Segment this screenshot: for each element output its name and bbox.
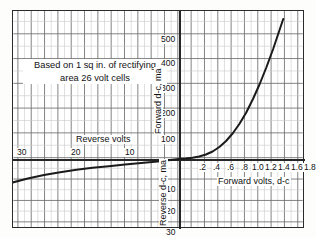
chart-annotation: Based on 1 sq in. of rectifying area 26 … (23, 59, 167, 84)
forward-xtick-0.6: .6 (226, 163, 235, 172)
forward-x-axis-title: Forward volts, d-c (217, 177, 291, 186)
forward-ytick-100: 100 (160, 135, 176, 144)
forward-xtick-1.0: 1.0 (251, 163, 265, 172)
forward-y-axis-title: Forward d-c, ma (154, 67, 163, 135)
annotation-line-2: area 26 volt cells (60, 73, 130, 83)
chart-figure: Based on 1 sq in. of rectifying area 26 … (0, 0, 316, 238)
forward-xtick-1.6: 1.6 (290, 163, 304, 172)
reverse-y-axis-title: Reverse d-c, ma (159, 159, 168, 227)
forward-xtick-0.8: .8 (240, 163, 249, 172)
forward-xtick-1.2: 1.2 (264, 163, 278, 172)
forward-xtick-1.4: 1.4 (277, 163, 291, 172)
reverse-xtick-30: 30 (16, 148, 27, 157)
forward-ytick-400: 400 (160, 59, 176, 68)
reverse-x-axis-title: Reverse volts (75, 135, 132, 144)
plot-frame: Based on 1 sq in. of rectifying area 26 … (12, 10, 304, 228)
reverse-xtick-20: 20 (70, 148, 81, 157)
forward-ytick-500: 500 (160, 35, 176, 44)
reverse-ytick-30: 30 (165, 228, 176, 237)
forward-xtick-1.8: 1.8 (303, 163, 316, 172)
reverse-xtick-10: 10 (124, 148, 135, 157)
forward-xtick-0.2: .2 (198, 163, 207, 172)
forward-xtick-0.4: .4 (212, 163, 221, 172)
annotation-line-1: Based on 1 sq in. of rectifying (34, 60, 156, 70)
